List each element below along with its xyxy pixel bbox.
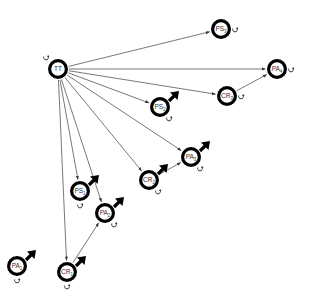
activation-arrow-icon	[200, 141, 210, 151]
node-pa2[interactable]: PA2	[97, 205, 114, 222]
self-loop-icon	[239, 94, 245, 99]
self-loop-icon	[78, 203, 84, 208]
activation-arrow-icon	[76, 256, 86, 266]
node-cr2[interactable]: CR2	[141, 172, 158, 189]
edge-tt-to-cr2	[65, 78, 142, 172]
node-pa1[interactable]: PA1	[9, 258, 26, 275]
node-pa3[interactable]: PA3	[183, 149, 200, 166]
node-ps1[interactable]: PS1	[72, 183, 89, 200]
edges-layer	[58, 32, 266, 263]
activation-arrow-icon	[26, 250, 36, 260]
node-cr3[interactable]: CR3	[219, 88, 236, 105]
edge-tt-to-ps1	[60, 80, 78, 180]
activation-arrow-icon	[169, 91, 179, 101]
edge-cr3-to-pa4	[237, 74, 267, 90]
self-loop-icon	[156, 189, 162, 194]
graph-diagram: TTPS3PA4CR3PS2PA3CR2PS1PA2PA1CR1	[0, 0, 317, 305]
self-loop-icon	[15, 278, 21, 283]
activation-arrow-icon	[114, 197, 124, 207]
self-loop-icon	[44, 55, 50, 60]
node-ps2[interactable]: PS2	[152, 99, 169, 116]
self-loop-icon	[65, 284, 71, 289]
self-loop-icon	[198, 166, 204, 171]
self-loop-icon	[112, 222, 118, 227]
edge-tt-to-cr1	[58, 80, 66, 261]
self-loop-icon	[233, 27, 239, 32]
node-pa4[interactable]: PA4	[269, 61, 286, 78]
node-ps3[interactable]: PS3	[213, 21, 230, 38]
node-tt[interactable]: TT	[50, 61, 67, 78]
node-cr1[interactable]: CR1	[59, 264, 76, 281]
self-loop-icon	[289, 67, 295, 72]
self-loop-icon	[167, 116, 173, 121]
edge-tt-to-ps3	[69, 32, 210, 67]
activation-arrow-icon	[89, 175, 99, 185]
node-label: TT	[54, 65, 62, 72]
nodes-layer: TTPS3PA4CR3PS2PA3CR2PS1PA2PA1CR1	[9, 21, 286, 281]
